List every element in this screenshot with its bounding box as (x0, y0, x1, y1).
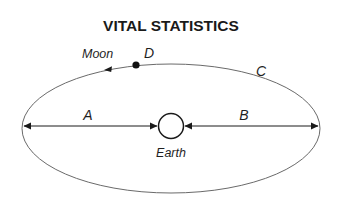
earth-label: Earth (156, 146, 186, 160)
moon-dot (132, 61, 139, 68)
distance-b-label: B (239, 107, 248, 123)
point-c-label: C (256, 63, 267, 79)
moon-label: Moon (82, 47, 113, 61)
orbit-diagram: VITAL STATISTICS Moon D C A Earth B (0, 0, 341, 207)
diagram-title: VITAL STATISTICS (103, 17, 239, 34)
distance-a-label: A (82, 107, 92, 123)
orbit-direction-arrow-icon (104, 66, 112, 72)
point-d-label: D (144, 45, 154, 61)
earth-circle (159, 114, 184, 139)
